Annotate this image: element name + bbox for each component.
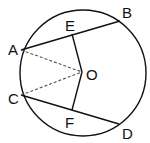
label-c: C xyxy=(8,90,19,107)
label-o: O xyxy=(86,66,98,83)
label-f: F xyxy=(65,114,74,131)
segment-ao-dashed xyxy=(21,50,82,72)
segment-co-dashed xyxy=(21,72,82,95)
label-a: A xyxy=(8,41,18,58)
segment-fo xyxy=(72,72,82,110)
label-d: D xyxy=(122,125,133,142)
label-b: B xyxy=(122,4,132,21)
circle xyxy=(20,10,146,136)
geometry-diagram: A B C D E F O xyxy=(0,0,150,143)
segment-eo xyxy=(72,34,82,72)
label-e: E xyxy=(65,17,75,34)
